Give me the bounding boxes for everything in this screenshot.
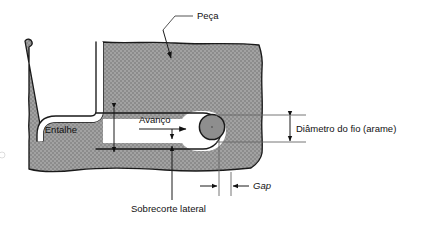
entalhe-label: Entalhe xyxy=(45,124,77,135)
peca-label: Peça xyxy=(197,10,219,21)
avanco-label: Avanço xyxy=(139,114,171,125)
wire-electrode xyxy=(199,114,224,139)
wire-diameter-label: Diâmetro do fio (arame) xyxy=(296,123,396,134)
wire-edm-cross-section-diagram: Peça Entalhe Avanço Diâmetro do fio (ara… xyxy=(0,0,424,228)
gap-label: Gap xyxy=(253,180,271,191)
sobrecorte-label: Sobrecorte lateral xyxy=(131,203,206,214)
wire-center-mark xyxy=(211,126,213,128)
